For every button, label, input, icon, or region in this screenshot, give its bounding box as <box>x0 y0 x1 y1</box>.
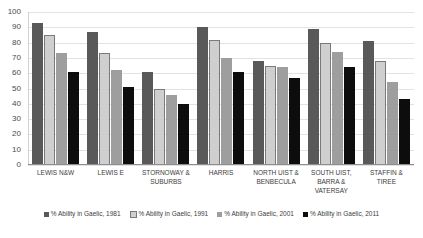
y-axis-tick-label: 40 <box>12 100 21 108</box>
bar-group <box>304 12 359 165</box>
legend-swatch-icon <box>44 212 49 217</box>
bar <box>44 35 55 165</box>
bar <box>154 89 165 166</box>
bar <box>111 70 122 165</box>
x-axis-category-label: HARRIS <box>193 168 248 208</box>
x-axis-category-label: NORTH UIST & BENBECULA <box>249 168 304 208</box>
legend-item[interactable]: % Ability in Gaelic, 2001 <box>217 211 294 218</box>
bar-group <box>193 12 248 165</box>
y-axis-tick-label: 90 <box>12 23 21 31</box>
x-axis-category-label: SOUTH UIST, BARRA & VATERSAY <box>304 168 359 208</box>
bar <box>265 66 276 165</box>
y-axis-tick-label: 80 <box>12 39 21 47</box>
legend-item[interactable]: % Ability in Gaelic, 1991 <box>130 211 209 218</box>
bar-group <box>138 12 193 165</box>
x-axis-category-label: LEWIS E <box>83 168 138 208</box>
bar <box>178 104 189 165</box>
x-axis-category-label: LEWIS N&W <box>28 168 83 208</box>
bar <box>332 52 343 165</box>
legend-item[interactable]: % Ability in Gaelic, 2011 <box>303 211 379 218</box>
bar <box>87 32 98 165</box>
bar <box>32 23 43 165</box>
bar-groups <box>28 12 414 165</box>
bar-group <box>83 12 138 165</box>
chart-legend: % Ability in Gaelic, 1981% Ability in Ga… <box>0 211 423 218</box>
bar <box>166 95 177 165</box>
legend-label: % Ability in Gaelic, 2001 <box>224 211 294 218</box>
bar <box>308 29 319 165</box>
y-axis-tick-label: 20 <box>12 130 21 138</box>
bar-group <box>249 12 304 165</box>
bar <box>320 43 331 165</box>
bar <box>209 40 220 165</box>
x-axis-line <box>28 164 414 165</box>
y-axis-tick-label: 30 <box>12 115 21 123</box>
legend-swatch-icon <box>217 212 222 217</box>
bar <box>399 99 410 165</box>
y-axis-tick-label: 60 <box>12 69 21 77</box>
legend-label: % Ability in Gaelic, 2011 <box>310 211 379 218</box>
bar <box>277 67 288 165</box>
x-axis-category-label: STAFFIN & TIREE <box>359 168 414 208</box>
y-axis-tick-label: 10 <box>12 146 21 154</box>
y-axis-tick-label: 70 <box>12 54 21 62</box>
bar-group <box>359 12 414 165</box>
x-axis-category-labels: LEWIS N&WLEWIS ESTORNOWAY & SUBURBSHARRI… <box>28 168 414 208</box>
bar <box>68 72 79 165</box>
y-axis-tick-label: 50 <box>12 85 21 93</box>
y-axis: 1009080706050403020100 <box>0 12 24 165</box>
x-axis-category-label: STORNOWAY & SUBURBS <box>138 168 193 208</box>
bar <box>221 58 232 165</box>
legend-swatch-icon <box>303 212 308 217</box>
bar <box>289 78 300 165</box>
y-axis-tick-label: 0 <box>17 161 21 169</box>
bar <box>253 61 264 165</box>
legend-label: % Ability in Gaelic, 1981 <box>51 211 121 218</box>
bar <box>363 41 374 165</box>
plot-area <box>28 12 414 165</box>
bar <box>344 67 355 165</box>
legend-swatch-icon <box>130 211 137 218</box>
bar <box>142 72 153 165</box>
bar <box>56 53 67 165</box>
y-axis-tick-label: 100 <box>8 8 21 16</box>
bar <box>375 61 386 165</box>
bar <box>387 82 398 165</box>
gridline <box>28 165 414 166</box>
bar <box>233 72 244 165</box>
bar <box>197 27 208 165</box>
legend-label: % Ability in Gaelic, 1991 <box>139 211 209 218</box>
legend-item[interactable]: % Ability in Gaelic, 1981 <box>44 211 121 218</box>
bar-group <box>28 12 83 165</box>
bar <box>99 53 110 165</box>
gaelic-ability-bar-chart: 1009080706050403020100 LEWIS N&WLEWIS ES… <box>0 0 423 238</box>
bar <box>123 87 134 165</box>
